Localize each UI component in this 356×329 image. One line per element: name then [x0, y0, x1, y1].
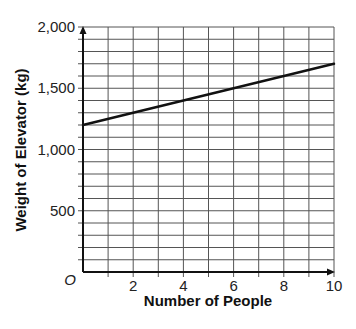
- x-tick-label: 8: [280, 277, 288, 294]
- x-tick-label: 10: [326, 277, 343, 294]
- y-tick-label: 1,500: [37, 79, 75, 96]
- y-tick-label: 1,000: [37, 141, 75, 158]
- y-axis-title: Weight of Elevator (kg): [12, 68, 29, 231]
- chart: 246810 5001,0001,5002,000 O Number of Pe…: [0, 0, 356, 329]
- x-tick-label: 2: [129, 277, 137, 294]
- y-tick-label: 500: [50, 202, 75, 219]
- grid: [78, 27, 334, 277]
- origin-label: O: [64, 271, 76, 288]
- y-tick-labels: 5001,0001,5002,000: [37, 18, 75, 219]
- y-tick-label: 2,000: [37, 18, 75, 35]
- x-axis-title: Number of People: [144, 292, 272, 309]
